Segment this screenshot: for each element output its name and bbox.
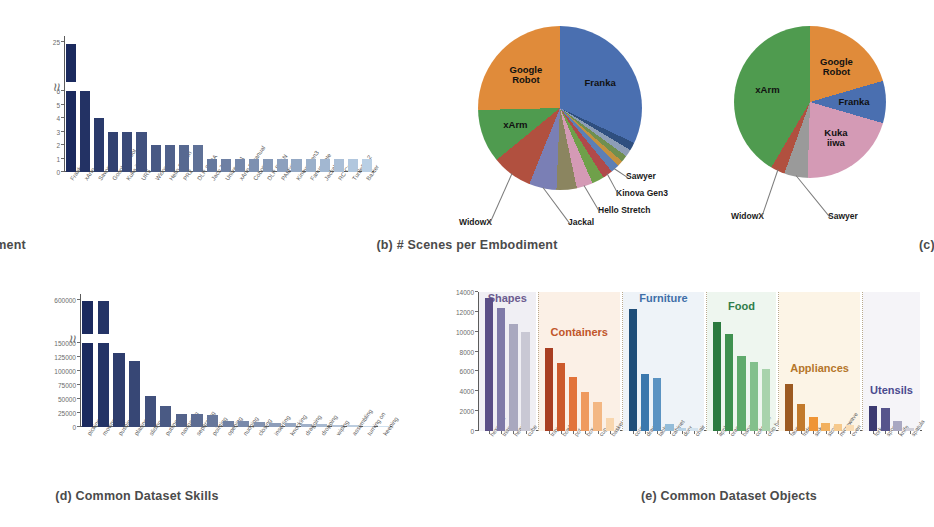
bar-item[interactable]: PR2 (177, 36, 191, 172)
bar-item[interactable]: Baxter (360, 36, 374, 172)
bar[interactable] (521, 332, 529, 431)
group-title-containers: Containers (551, 326, 608, 338)
bar-item[interactable]: Google Robot (106, 36, 120, 172)
bar[interactable] (179, 145, 189, 172)
bar-item[interactable]: dragging (298, 294, 314, 427)
bar[interactable] (545, 348, 553, 431)
bar-item[interactable]: knocking (283, 294, 299, 427)
pie-slice-label: Franka (839, 97, 870, 107)
bar[interactable] (737, 356, 745, 431)
bar-item[interactable]: assembling (345, 294, 361, 427)
bar-item[interactable]: sliding (142, 294, 158, 427)
axis-break-notch (65, 82, 374, 91)
bar-item[interactable]: turning on (361, 294, 377, 427)
bar[interactable] (151, 145, 161, 172)
bar[interactable] (193, 145, 203, 172)
bar-item[interactable]: Jackal (318, 36, 332, 172)
bar-item[interactable]: Sawyer (92, 36, 106, 172)
pie-slice-label: Sawyer (626, 172, 656, 181)
bar-item[interactable]: pushing (111, 294, 127, 427)
bar-item[interactable]: moving (96, 294, 112, 427)
y-axis-tick-label: 1 (56, 155, 64, 162)
bar[interactable] (129, 361, 140, 427)
panel-b-scenes-per-embodiment: FrankaSawyerKinova Gen3Hello StretchJack… (440, 26, 680, 226)
bar[interactable] (641, 374, 649, 431)
bar-item[interactable]: DLR SARA (191, 36, 205, 172)
bar-item[interactable]: PAMY2 (275, 36, 289, 172)
bar-item[interactable]: WidowX (149, 36, 163, 172)
bar[interactable] (165, 145, 175, 172)
bar-item[interactable]: keeping (376, 294, 392, 427)
bar[interactable] (66, 44, 76, 172)
y-axis-tick-label: 8000 (460, 348, 478, 355)
pie-slice-label: Jackal (568, 218, 594, 227)
bar[interactable] (82, 301, 93, 427)
bar-item[interactable]: pointing (205, 294, 221, 427)
bar[interactable] (94, 118, 104, 172)
bar-item[interactable]: nudging (236, 294, 252, 427)
bar[interactable] (509, 324, 517, 431)
x-axis-tick-mark (754, 431, 755, 434)
y-axis-tick-mark (475, 390, 478, 391)
bar[interactable] (785, 384, 793, 431)
pie-slice-label: Kinova Gen3 (616, 189, 668, 198)
pie-chart-b[interactable] (478, 26, 642, 190)
bar-item[interactable]: navigating (174, 294, 190, 427)
bar[interactable] (98, 301, 109, 427)
bar[interactable] (113, 353, 124, 427)
bar-item[interactable]: Franka (64, 36, 78, 172)
bar[interactable] (593, 402, 601, 431)
bar-item[interactable]: RC Car (332, 36, 346, 172)
y-axis-tick-mark (475, 430, 478, 431)
bar-item[interactable]: separating (189, 294, 205, 427)
bar-item[interactable]: Fanuc Mate (304, 36, 318, 172)
bar[interactable] (108, 132, 118, 173)
bar[interactable] (136, 132, 146, 173)
pie-slice-label: WidowX (459, 218, 492, 227)
bar[interactable] (725, 334, 733, 431)
group-title-furniture: Furniture (639, 292, 687, 304)
bar-item[interactable]: Jaco 2 (205, 36, 219, 172)
bar-item[interactable]: wiping (330, 294, 346, 427)
bar-item[interactable]: Hello Stretch (163, 36, 177, 172)
bar-item[interactable]: TurtleBot 2 (346, 36, 360, 172)
bar[interactable] (653, 378, 661, 431)
group-separator (778, 292, 779, 431)
bar[interactable] (497, 308, 505, 431)
bar-item[interactable]: DLR EDAN (261, 36, 275, 172)
x-axis-tick-mark (670, 431, 671, 434)
y-axis-tick-label: 100000 (54, 368, 80, 375)
bar[interactable] (80, 91, 90, 172)
bar-item[interactable]: UR5 (134, 36, 148, 172)
bar-item[interactable]: xArm Bimanual (233, 36, 247, 172)
bar-item[interactable]: Unitree A1 (219, 36, 233, 172)
bar-item[interactable]: Kuka iiwa (120, 36, 134, 172)
bar-item[interactable]: opening (220, 294, 236, 427)
bar[interactable] (581, 392, 589, 431)
bar-series: FrankaxArmSawyerGoogle RobotKuka iiwaUR5… (64, 36, 374, 172)
bar-item[interactable]: picking (80, 294, 96, 427)
bar[interactable] (713, 322, 721, 431)
x-axis-tick-mark (898, 431, 899, 434)
bar[interactable] (485, 298, 493, 431)
x-axis-tick-mark (801, 431, 802, 434)
bar[interactable] (569, 377, 577, 431)
bar[interactable] (122, 132, 132, 173)
bar-item[interactable]: Cobotta (247, 36, 261, 172)
bar[interactable] (557, 363, 565, 432)
y-axis-tick-label: 4 (56, 115, 64, 122)
bar[interactable] (750, 362, 758, 432)
bar-item[interactable]: dropping (314, 294, 330, 427)
bar[interactable] (797, 404, 805, 431)
panel-d-common-dataset-skills: 0250005000075000100000125000150000600000… (18, 288, 398, 483)
y-axis-tick-label: 50000 (58, 396, 80, 403)
bar-item[interactable]: closing (252, 294, 268, 427)
bar-item[interactable]: xArm (78, 36, 92, 172)
bar-item[interactable]: Kinova Gen3 (290, 36, 304, 172)
bar-item[interactable]: inserting (267, 294, 283, 427)
bar[interactable] (762, 369, 770, 431)
bar[interactable] (629, 309, 637, 431)
bar-item[interactable]: placing (127, 294, 143, 427)
bar-item[interactable]: putting (158, 294, 174, 427)
y-axis-tick-label: 5 (56, 101, 64, 108)
